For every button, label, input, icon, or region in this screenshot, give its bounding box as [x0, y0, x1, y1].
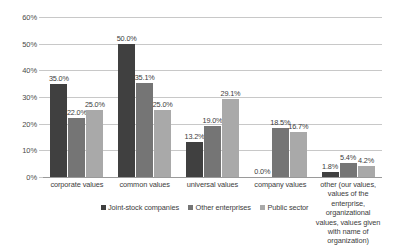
chart-legend: Joint-stock companiesOther enterprisesPu… — [0, 203, 409, 212]
legend-item[interactable]: Joint-stock companies — [101, 203, 180, 212]
legend-item[interactable]: Other enterprises — [188, 203, 251, 212]
bar-value-label: 1.8% — [322, 162, 338, 171]
bar-slot: 35.0% — [50, 17, 67, 177]
legend-swatch-icon — [101, 205, 106, 210]
bar-value-label: 25.0% — [153, 100, 173, 109]
y-axis-tick-label: 40% — [22, 66, 37, 75]
bar-value-label: 35.1% — [135, 73, 155, 82]
bar[interactable] — [322, 172, 339, 177]
legend-swatch-icon — [260, 205, 265, 210]
bar-group: 1.8%5.4%4.2% — [314, 17, 382, 177]
bar-value-label: 19.0% — [203, 116, 223, 125]
x-axis-category-label: other (our values, values of the enterpr… — [314, 180, 382, 246]
y-axis-tick-label: 50% — [22, 39, 37, 48]
bar-value-label: 16.7% — [288, 122, 308, 131]
y-axis-tick-label: 0% — [26, 173, 37, 182]
bar-slot: 5.4% — [340, 17, 357, 177]
bar[interactable] — [136, 83, 153, 177]
bar[interactable] — [290, 132, 307, 177]
x-axis-category-label: company values — [246, 180, 314, 246]
bar-slot: 22.0% — [68, 17, 85, 177]
bar-slot: 4.2% — [358, 17, 375, 177]
legend-swatch-icon — [188, 205, 193, 210]
y-axis: 60%50%40%30%20%10%0% — [0, 0, 43, 250]
bar-value-label: 50.0% — [117, 34, 137, 43]
bar-value-label: 25.0% — [85, 100, 105, 109]
bar[interactable] — [154, 110, 171, 177]
x-axis-category-label: corporate values — [43, 180, 111, 246]
bar-group: 0.0%18.5%16.7% — [246, 17, 314, 177]
bar-value-label: 4.2% — [358, 156, 374, 165]
bar[interactable] — [118, 44, 135, 177]
bar-slot: 25.0% — [86, 17, 103, 177]
bar-slot: 29.1% — [222, 17, 239, 177]
bar-value-label: 0.0% — [254, 167, 270, 176]
legend-label: Other enterprises — [196, 203, 251, 212]
bar-value-label: 22.0% — [67, 108, 87, 117]
bar[interactable] — [68, 118, 85, 177]
y-axis-tick-label: 60% — [22, 13, 37, 22]
legend-item[interactable]: Public sector — [260, 203, 309, 212]
bar-value-label: 18.5% — [270, 118, 290, 127]
bar[interactable] — [186, 142, 203, 177]
y-axis-tick-label: 10% — [22, 146, 37, 155]
x-axis-category-label: common values — [111, 180, 179, 246]
bar-slot: 50.0% — [118, 17, 135, 177]
bar-slot: 18.5% — [272, 17, 289, 177]
legend-label: Public sector — [267, 203, 308, 212]
bar-slot: 13.2% — [186, 17, 203, 177]
bar[interactable] — [50, 84, 67, 177]
bar[interactable] — [340, 163, 357, 177]
bar-value-label: 5.4% — [340, 153, 356, 162]
bar-group: 35.0%22.0%25.0% — [43, 17, 111, 177]
bar[interactable] — [358, 166, 375, 177]
bar-slot: 1.8% — [322, 17, 339, 177]
x-axis-line — [43, 177, 382, 178]
bar[interactable] — [204, 126, 221, 177]
x-axis-category-label: universal values — [179, 180, 247, 246]
bar-slot: 19.0% — [204, 17, 221, 177]
y-axis-tick-label: 30% — [22, 93, 37, 102]
bar-value-label: 13.2% — [185, 132, 205, 141]
bar[interactable] — [222, 99, 239, 177]
bar-groups: 35.0%22.0%25.0%50.0%35.1%25.0%13.2%19.0%… — [43, 17, 382, 177]
bar[interactable] — [272, 128, 289, 177]
bar-slot: 16.7% — [290, 17, 307, 177]
legend-label: Joint-stock companies — [108, 203, 179, 212]
bar-value-label: 35.0% — [49, 74, 69, 83]
x-axis-category-labels: corporate valuescommon valuesuniversal v… — [43, 180, 382, 246]
bar-group: 13.2%19.0%29.1% — [179, 17, 247, 177]
bar-slot: 25.0% — [154, 17, 171, 177]
bar-group: 50.0%35.1%25.0% — [111, 17, 179, 177]
bar-slot: 0.0% — [254, 17, 271, 177]
bar-slot: 35.1% — [136, 17, 153, 177]
bar[interactable] — [86, 110, 103, 177]
y-axis-tick-label: 20% — [22, 119, 37, 128]
bar-value-label: 29.1% — [221, 89, 241, 98]
bar-chart: 60%50%40%30%20%10%0% 35.0%22.0%25.0%50.0… — [0, 0, 409, 250]
